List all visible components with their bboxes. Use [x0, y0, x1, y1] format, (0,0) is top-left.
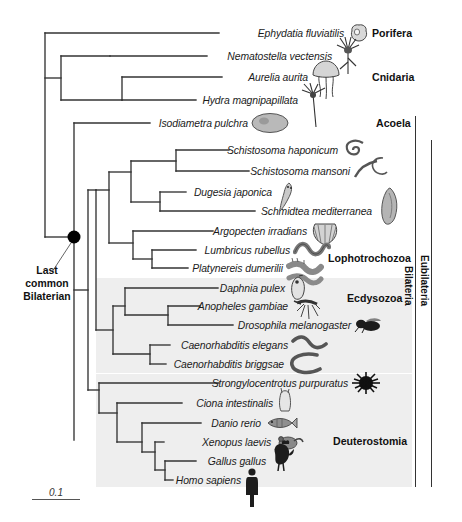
taxon-label: Argopecten irradians — [0, 226, 307, 237]
taxon-label: Schistosoma mansoni — [0, 166, 350, 177]
taxon-label: Gallus gallus — [0, 456, 266, 467]
eubilateria-bracket-line — [431, 140, 432, 487]
root-label-line-1: Last — [36, 265, 57, 276]
bracket-label-bilateria: Bilateria — [403, 266, 414, 305]
scale-bar: 0.1 — [32, 487, 80, 500]
taxon-label: Strongylocentrotus purpuratus — [0, 378, 348, 389]
scale-bar-value: 0.1 — [32, 487, 80, 498]
taxon-label: Xenopus laevis — [0, 437, 271, 448]
taxon-label: Schistosoma haponicum — [0, 145, 338, 156]
last-common-bilaterian-label: Last common Bilaterian — [4, 264, 90, 303]
phylogenetic-tree-figure: Ephydatia fluviatilis Nematostella vecte… — [0, 0, 462, 522]
bilateria-bracket-line — [415, 116, 416, 487]
scale-bar-rule — [32, 499, 80, 500]
taxon-label: Lumbricus rubellus — [0, 245, 290, 256]
taxon-label: Ephydatia fluviatilis — [0, 28, 344, 39]
taxon-label: Ciona intestinalis — [0, 398, 273, 409]
group-label-deuterostomia: Deuterostomia — [333, 435, 407, 447]
root-label-line-2: common — [25, 278, 68, 289]
bracket-label-eubilateria: Eubilateria — [419, 255, 430, 306]
taxon-label: Aurelia aurita — [0, 72, 308, 83]
root-label-line-3: Bilaterian — [23, 291, 70, 302]
taxon-label: Schmidtea mediterranea — [0, 206, 372, 217]
group-label-acoela: Acoela — [376, 117, 411, 129]
taxon-label: Dugesia japonica — [0, 187, 272, 198]
taxon-label: Isodiametra pulchra — [0, 118, 248, 129]
taxon-label: Hydra magnipapillata — [0, 95, 298, 106]
taxon-label: Danio rerio — [0, 418, 261, 429]
taxon-label: Caenorhabditis elegans — [0, 340, 288, 351]
group-label-ecdysozoa: Ecdysozoa — [347, 292, 402, 304]
taxon-label: Drosophila melanogaster — [0, 320, 351, 331]
taxon-label: Homo sapiens — [0, 475, 241, 486]
group-label-porifera: Porifera — [372, 27, 412, 39]
group-label-cnidaria: Cnidaria — [372, 71, 414, 83]
taxon-label: Caenorhabditis briggsae — [0, 359, 284, 370]
group-label-lophotrochozoa: Lophotrochozoa — [328, 252, 411, 264]
taxon-label: Nematostella vectensis — [0, 51, 332, 62]
